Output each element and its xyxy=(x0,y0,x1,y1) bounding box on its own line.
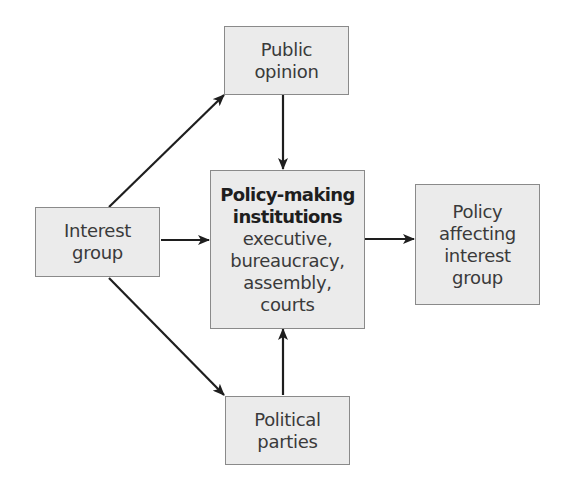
node-label-line: group xyxy=(452,267,503,289)
node-label-line: executive, xyxy=(243,228,333,250)
node-label-line: courts xyxy=(260,294,314,316)
node-public-opinion: Public opinion xyxy=(224,26,349,95)
node-label-line: group xyxy=(72,242,123,264)
arrow-interest-to-public-opinion xyxy=(109,95,224,207)
node-label-line: assembly, xyxy=(243,272,332,294)
arrow-interest-to-political-parties xyxy=(109,278,224,395)
diagram-canvas: Public opinion Interest group Policy-mak… xyxy=(0,0,583,498)
node-political-parties: Political parties xyxy=(225,396,350,465)
node-label-line: Political xyxy=(254,409,321,431)
node-title-line: Policy-making xyxy=(220,184,355,206)
node-policy-making-institutions: Policy-making institutions executive, bu… xyxy=(210,170,365,329)
node-label-line: interest xyxy=(444,245,511,267)
node-label-line: Interest xyxy=(64,220,131,242)
node-label-line: Public xyxy=(261,39,312,61)
node-title-line: institutions xyxy=(233,206,342,228)
node-interest-group: Interest group xyxy=(35,207,160,277)
node-label-line: Policy xyxy=(453,201,503,223)
node-label-line: opinion xyxy=(254,61,318,83)
node-policy-affecting-interest-group: Policy affecting interest group xyxy=(415,184,540,305)
node-label-line: affecting xyxy=(439,223,516,245)
node-label-line: bureaucracy, xyxy=(230,250,344,272)
node-label-line: parties xyxy=(257,431,317,453)
